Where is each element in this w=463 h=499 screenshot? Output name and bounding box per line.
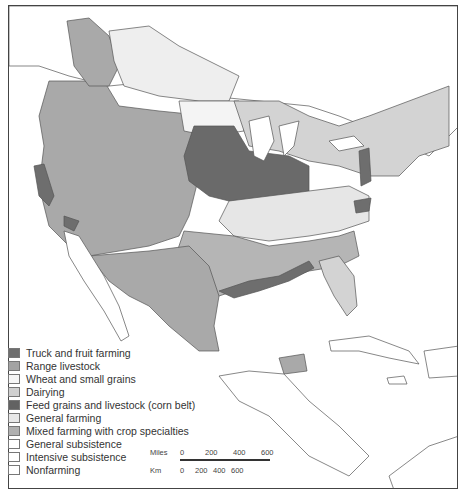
legend-label: Wheat and small grains [26, 373, 136, 385]
cuba [329, 336, 419, 364]
legend-item-truck-fruit: Truck and fruit farming [8, 346, 195, 359]
hispaniola [424, 346, 458, 378]
legend-swatch [8, 452, 20, 462]
legend-label: Truck and fruit farming [26, 347, 131, 359]
legend-swatch [8, 374, 20, 384]
jamaica [387, 376, 407, 384]
legend-label: Nonfarming [26, 464, 80, 476]
scale-km-tick: 200 [195, 466, 208, 475]
scale-bar: Miles 0 200 400 600 Km 0 200 400 600 [150, 448, 280, 478]
scale-miles-tick: 200 [205, 448, 218, 457]
legend-label: Range livestock [26, 360, 100, 372]
legend-label: Feed grains and livestock (corn belt) [26, 399, 195, 411]
legend-item-dairying: Dairying [8, 385, 195, 398]
legend-swatch [8, 413, 20, 423]
scale-miles-tick: 0 [180, 448, 184, 457]
scale-miles-label: Miles [150, 448, 168, 457]
south-america [389, 436, 458, 489]
legend-label: Intensive subsistence [26, 451, 126, 463]
legend-label: Dairying [26, 386, 65, 398]
legend-swatch [8, 426, 20, 436]
florida [319, 256, 357, 316]
scale-bar-line [180, 459, 270, 461]
legend-label: Mixed farming with crop specialties [26, 425, 189, 437]
legend-swatch [8, 361, 20, 371]
legend-swatch [8, 348, 20, 358]
legend-swatch [8, 400, 20, 410]
legend-label: General subsistence [26, 438, 122, 450]
scale-km-label: Km [150, 466, 161, 475]
legend-swatch [8, 387, 20, 397]
yucatan [279, 354, 307, 374]
legend-item-general-farming: General farming [8, 411, 195, 424]
legend-swatch [8, 439, 20, 449]
scale-miles-tick: 600 [261, 448, 274, 457]
legend-label: General farming [26, 412, 101, 424]
legend-item-mixed-farming: Mixed farming with crop specialties [8, 424, 195, 437]
legend-item-wheat: Wheat and small grains [8, 372, 195, 385]
scale-km-tick: 600 [231, 466, 244, 475]
legend-item-range-livestock: Range livestock [8, 359, 195, 372]
scale-km-tick: 400 [213, 466, 226, 475]
legend-item-corn-belt: Feed grains and livestock (corn belt) [8, 398, 195, 411]
legend-swatch [8, 465, 20, 475]
scale-miles-tick: 400 [233, 448, 246, 457]
scale-km-tick: 0 [180, 466, 184, 475]
